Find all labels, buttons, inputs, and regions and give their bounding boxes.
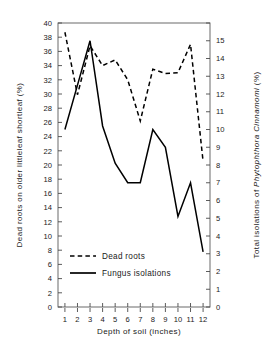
x-tick-label: 7 <box>138 315 142 324</box>
legend-label-dead-roots: Dead roots <box>102 252 145 261</box>
x-tick-label: 5 <box>113 315 117 324</box>
x-tick-label: 11 <box>187 315 195 324</box>
y-tick-label-left: 24 <box>44 132 52 141</box>
y-tick-label-left: 40 <box>44 19 52 28</box>
y-tick-label-left: 8 <box>48 246 52 255</box>
x-tick-label: 4 <box>100 315 104 324</box>
y-tick-label-right: 11 <box>216 107 224 116</box>
x-tick-label: 2 <box>75 315 79 324</box>
y-tick-label-right: 3 <box>216 249 220 258</box>
x-tick-label: 9 <box>163 315 167 324</box>
x-tick-label: 10 <box>174 315 182 324</box>
y-tick-label-left: 6 <box>48 260 52 269</box>
y-tick-label-right: 2 <box>216 267 220 276</box>
y-tick-label-right: 5 <box>216 214 220 223</box>
y-tick-label-right: 14 <box>216 54 224 63</box>
figure-background <box>0 0 279 360</box>
y-tick-label-right: 1 <box>216 285 220 294</box>
y-axis-left-title: Dead roots on older littleleaf shortleaf… <box>15 83 24 248</box>
y-tick-label-right: 8 <box>216 161 220 170</box>
y-tick-label-right: 12 <box>216 90 224 99</box>
x-axis-title: Depth of soil (inches) <box>97 327 181 336</box>
y-tick-label-left: 14 <box>44 203 52 212</box>
y-tick-label-right: 10 <box>216 125 224 134</box>
y-tick-label-left: 10 <box>44 232 52 241</box>
x-tick-label: 1 <box>63 315 67 324</box>
y-tick-label-left: 0 <box>48 303 52 312</box>
y-tick-label-left: 16 <box>44 189 52 198</box>
y-tick-label-left: 4 <box>48 274 52 283</box>
x-tick-label: 6 <box>126 315 130 324</box>
x-tick-label: 3 <box>88 315 92 324</box>
y-tick-label-right: 9 <box>216 143 220 152</box>
y-tick-label-left: 30 <box>44 90 52 99</box>
y-tick-label-left: 26 <box>44 118 52 127</box>
y-tick-label-right: 15 <box>216 36 224 45</box>
y-tick-label-left: 20 <box>44 161 52 170</box>
y-tick-label-left: 22 <box>44 147 52 156</box>
x-tick-label: 8 <box>151 315 155 324</box>
y-tick-label-right: 0 <box>216 303 220 312</box>
y-tick-label-right: 6 <box>216 196 220 205</box>
y-tick-label-right: 13 <box>216 72 224 81</box>
legend-label-fungus-isolations: Fungus isolations <box>102 269 171 278</box>
y-tick-label-left: 34 <box>44 61 52 70</box>
y-tick-label-left: 28 <box>44 104 52 113</box>
x-tick-label: 12 <box>199 315 207 324</box>
y-tick-label-left: 32 <box>44 76 52 85</box>
y-tick-label-left: 2 <box>48 289 52 298</box>
y-tick-label-left: 12 <box>44 218 52 227</box>
y-tick-label-right: 4 <box>216 232 220 241</box>
y-axis-right-title: Total isolations of Phytophthora Cinnamo… <box>252 72 261 259</box>
chart-figure: 0246810121416182022242628303234363840 01… <box>0 0 279 360</box>
y-tick-label-left: 36 <box>44 47 52 56</box>
y-tick-label-left: 18 <box>44 175 52 184</box>
y-tick-label-right: 7 <box>216 178 220 187</box>
y-tick-label-left: 38 <box>44 33 52 42</box>
